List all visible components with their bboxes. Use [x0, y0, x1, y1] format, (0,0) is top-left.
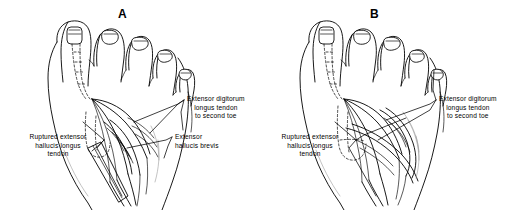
edl-line-3: to second toe	[187, 112, 245, 121]
extensor-digitorum-longus-label-a: Extensor digitorum longus tendon to seco…	[187, 95, 245, 121]
toes-a	[57, 21, 195, 106]
foot-outline-a	[48, 42, 192, 210]
b-rup-line-3: tendon	[266, 150, 354, 159]
edl-line-2: longus tendon	[187, 104, 245, 113]
ruptured-ehl-label-a: Ruptured extensor hallucis longus tendon	[14, 133, 102, 159]
extensor-tendon-fan-b	[344, 99, 418, 206]
extensor-hallucis-brevis-label-a: Extensor hallucis brevis	[175, 133, 219, 150]
rup-line-2: hallucis longus	[14, 142, 102, 151]
b-rup-line-1: Ruptured extensor	[266, 133, 354, 142]
extensor-digitorum-longus-label-b: Extensor digitorum longus tendon to seco…	[439, 95, 497, 121]
ehb-line-1: Extensor	[175, 133, 219, 142]
anatomy-figure: A	[0, 0, 521, 210]
panel-a: A	[0, 0, 261, 210]
b-edl-line-2: longus tendon	[439, 104, 497, 113]
ruptured-ehl-label-b: Ruptured extensor hallucis longus tendon	[266, 133, 354, 159]
web-spaces-a	[89, 60, 176, 95]
b-edl-line-1: Extensor digitorum	[439, 95, 497, 104]
b-edl-line-3: to second toe	[439, 112, 497, 121]
ehb-line-2: hallucis brevis	[175, 142, 219, 151]
panel-b: B	[260, 0, 521, 210]
b-rup-line-2: hallucis longus	[266, 142, 354, 151]
edl-line-1: Extensor digitorum	[187, 95, 245, 104]
rup-line-1: Ruptured extensor	[14, 133, 102, 142]
toes-b	[309, 21, 447, 106]
web-spaces-b	[341, 60, 428, 95]
rup-line-3: tendon	[14, 150, 102, 159]
foot-outline-b	[300, 42, 444, 210]
